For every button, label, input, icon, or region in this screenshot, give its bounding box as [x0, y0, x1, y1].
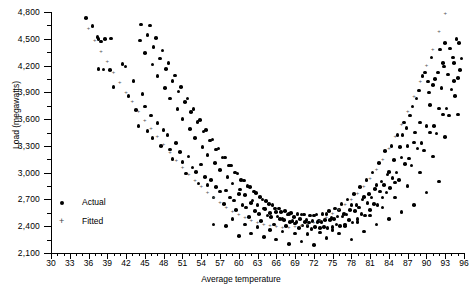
scatter-chart: Load (megawatts) Average temperature Act…: [0, 0, 474, 289]
data-point-actual: [151, 63, 155, 67]
data-point-fitted: [155, 134, 160, 139]
data-point-fitted: [318, 218, 323, 223]
data-point-actual: [91, 24, 95, 28]
data-point-actual: [124, 65, 128, 69]
filled-circle-icon: [60, 201, 64, 205]
x-tick-minor: [76, 253, 77, 256]
data-point-actual: [289, 211, 293, 215]
data-point-actual: [428, 131, 432, 135]
data-point-actual: [361, 198, 365, 202]
data-point-actual: [318, 231, 322, 235]
y-tick-major: [44, 199, 51, 200]
data-point-actual: [143, 51, 147, 55]
y-tick-major: [44, 253, 51, 254]
data-point-actual: [450, 88, 454, 92]
data-point-actual: [148, 24, 152, 28]
data-point-actual: [362, 230, 366, 234]
data-point-actual: [194, 170, 198, 174]
data-point-fitted: [268, 223, 273, 228]
data-point-fitted: [199, 184, 204, 189]
data-point-actual: [254, 191, 258, 195]
x-tick-minor: [226, 253, 227, 256]
data-point-actual: [426, 80, 430, 84]
data-point-fitted: [299, 223, 304, 228]
data-point-actual: [268, 228, 272, 232]
x-tick-minor: [195, 253, 196, 256]
data-point-fitted: [236, 212, 241, 217]
data-point-actual: [452, 61, 456, 65]
y-tick-label: 3,600: [0, 115, 40, 124]
data-point-fitted: [192, 178, 197, 183]
data-point-actual: [206, 183, 210, 187]
data-point-actual: [448, 47, 452, 51]
data-point-actual: [293, 232, 297, 236]
data-point-actual: [206, 153, 210, 157]
y-tick-major: [44, 119, 51, 120]
data-point-actual: [186, 97, 190, 101]
data-point-actual: [428, 103, 432, 107]
data-point-actual: [313, 225, 317, 229]
x-tick-minor: [132, 253, 133, 256]
data-point-fitted: [330, 211, 335, 216]
data-point-actual: [407, 157, 411, 161]
x-tick-minor: [420, 253, 421, 256]
x-axis-title: Average temperature: [176, 274, 306, 284]
data-point-actual: [431, 83, 435, 87]
data-point-actual: [132, 79, 136, 83]
data-point-actual: [350, 203, 354, 207]
data-point-actual: [181, 117, 185, 121]
data-point-actual: [178, 150, 182, 154]
x-tick-minor: [232, 253, 233, 256]
data-point-actual: [446, 73, 450, 77]
data-point-actual: [229, 164, 233, 168]
data-point-actual: [152, 45, 156, 49]
data-point-actual: [425, 191, 429, 195]
data-point-fitted: [142, 118, 147, 123]
data-point-actual: [231, 182, 235, 186]
y-tick-label: 2,400: [0, 222, 40, 231]
x-tick-minor: [139, 253, 140, 256]
data-point-fitted: [105, 59, 110, 64]
data-point-actual: [183, 100, 187, 104]
data-point-actual: [330, 216, 334, 220]
data-point-fitted: [224, 205, 229, 210]
x-tick-minor: [57, 253, 58, 256]
data-point-fitted: [130, 99, 135, 104]
data-point-actual: [151, 136, 155, 140]
y-tick-major: [44, 12, 51, 13]
plus-marker-icon: +: [59, 216, 64, 226]
data-point-fitted: [368, 176, 373, 181]
data-point-fitted: [205, 190, 210, 195]
data-point-actual: [226, 175, 230, 179]
data-point-actual: [336, 215, 340, 219]
data-point-actual: [292, 215, 296, 219]
data-point-actual: [97, 67, 101, 71]
data-point-actual: [416, 147, 420, 151]
data-point-actual: [269, 215, 273, 219]
data-point-actual: [236, 172, 240, 176]
data-point-actual: [458, 68, 462, 72]
data-point-actual: [393, 196, 397, 200]
data-point-actual: [366, 201, 370, 205]
data-point-actual: [237, 192, 241, 196]
data-point-actual: [376, 203, 380, 207]
data-point-actual: [193, 136, 197, 140]
data-point-actual: [343, 223, 347, 227]
data-point-actual: [224, 189, 228, 193]
data-point-actual: [232, 199, 236, 203]
data-point-actual: [242, 179, 246, 183]
data-point-fitted: [242, 215, 247, 220]
data-point-actual: [262, 235, 266, 239]
data-point-actual: [243, 193, 247, 197]
data-point-fitted: [305, 222, 310, 227]
data-point-actual: [456, 76, 460, 80]
data-point-actual: [137, 124, 141, 128]
data-point-actual: [139, 23, 143, 27]
data-point-actual: [381, 206, 385, 210]
data-point-actual: [257, 212, 261, 216]
x-tick-minor: [376, 253, 377, 256]
data-point-actual: [368, 214, 372, 218]
legend-label-fitted: Fitted: [82, 216, 103, 226]
x-tick-minor: [64, 253, 65, 256]
data-point-fitted: [111, 70, 116, 75]
